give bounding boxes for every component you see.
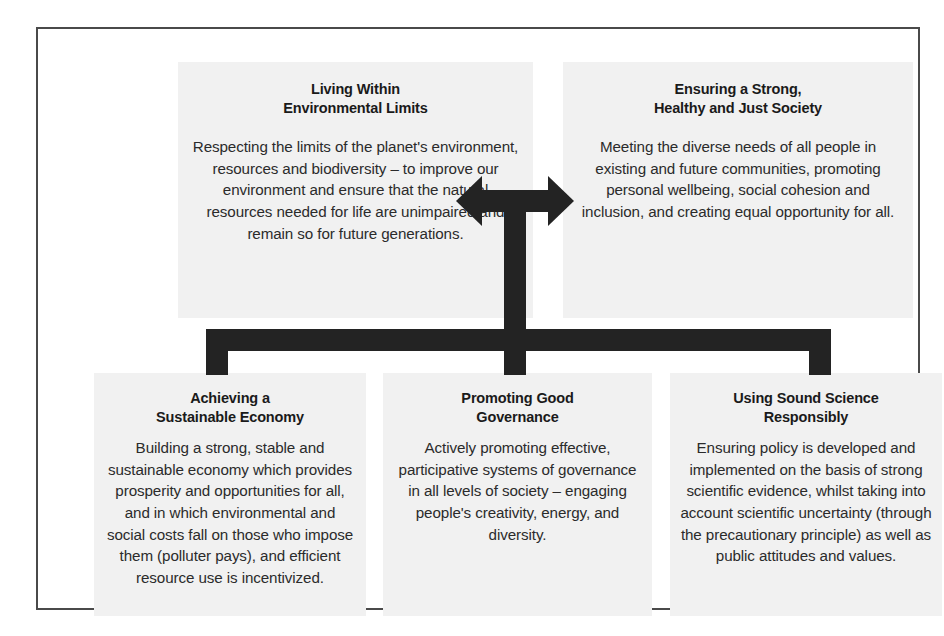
panel-body-good-governance: Actively promoting effective, participat…: [393, 427, 642, 545]
panel-body-sustainable-economy: Building a strong, stable and sustainabl…: [104, 427, 356, 588]
panel-title-environmental-limits: Living Within Environmental Limits: [188, 62, 523, 118]
panel-achieving-sustainable-economy: Achieving a Sustainable Economy Building…: [94, 373, 366, 616]
panel-title-sound-science: Using Sound Science Responsibly: [680, 373, 932, 427]
distribution-bracket-bar-icon: [206, 329, 831, 379]
panel-using-sound-science-responsibly: Using Sound Science Responsibly Ensuring…: [670, 373, 942, 616]
panel-promoting-good-governance: Promoting Good Governance Actively promo…: [383, 373, 652, 616]
panel-ensuring-strong-healthy-just-society: Ensuring a Strong, Healthy and Just Soci…: [563, 62, 913, 318]
panel-body-just-society: Meeting the diverse needs of all people …: [573, 118, 903, 222]
sustainable-development-principles-diagram: Living Within Environmental Limits Respe…: [0, 0, 944, 636]
vertical-stem-connector: [504, 229, 526, 334]
panel-title-just-society: Ensuring a Strong, Healthy and Just Soci…: [573, 62, 903, 118]
diagram-frame: Living Within Environmental Limits Respe…: [36, 27, 920, 610]
panel-body-sound-science: Ensuring policy is developed and impleme…: [680, 427, 932, 566]
panel-title-sustainable-economy: Achieving a Sustainable Economy: [104, 373, 356, 427]
double-headed-arrow-icon: [456, 172, 574, 234]
panel-title-good-governance: Promoting Good Governance: [393, 373, 642, 427]
